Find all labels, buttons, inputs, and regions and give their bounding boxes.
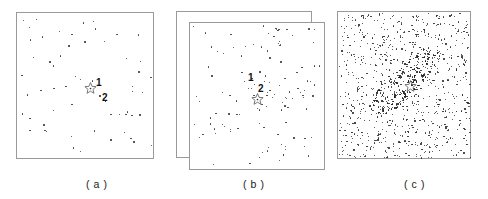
star-marker-b [251, 93, 264, 106]
figure-root: 12( a )12( b )( c ) [0, 0, 488, 199]
marker-point-a-2 [99, 95, 101, 97]
marker-label-b-2: 2 [258, 84, 264, 94]
marker-label-a-2: 2 [102, 93, 108, 103]
star-marker-c [404, 80, 417, 93]
marker-label-b-1: 1 [248, 73, 254, 83]
panel-caption-b: ( b ) [243, 178, 265, 190]
marker-point-b-1 [259, 71, 261, 73]
panel-caption-c: ( c ) [404, 178, 425, 190]
panel-caption-a: ( a ) [86, 178, 108, 190]
marker-label-a-1: 1 [96, 78, 102, 88]
